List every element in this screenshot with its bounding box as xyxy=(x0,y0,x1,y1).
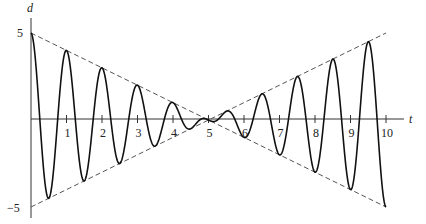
x-axis-label: t xyxy=(409,112,413,126)
x-tick-label: 7 xyxy=(278,126,284,140)
x-tick-label: 5 xyxy=(207,126,213,140)
x-tick-label: 3 xyxy=(136,126,142,140)
y-axis-label: d xyxy=(27,1,34,15)
chart: 12345678910 d t 5 −5 xyxy=(0,0,426,224)
x-tick-label: 8 xyxy=(313,126,319,140)
y-tick-min: −5 xyxy=(7,201,20,215)
x-tick-label: 9 xyxy=(349,126,355,140)
x-tick-label: 10 xyxy=(381,126,393,140)
x-tick-label: 1 xyxy=(65,126,71,140)
y-tick-max: 5 xyxy=(17,26,23,40)
x-tick-label: 2 xyxy=(100,126,106,140)
